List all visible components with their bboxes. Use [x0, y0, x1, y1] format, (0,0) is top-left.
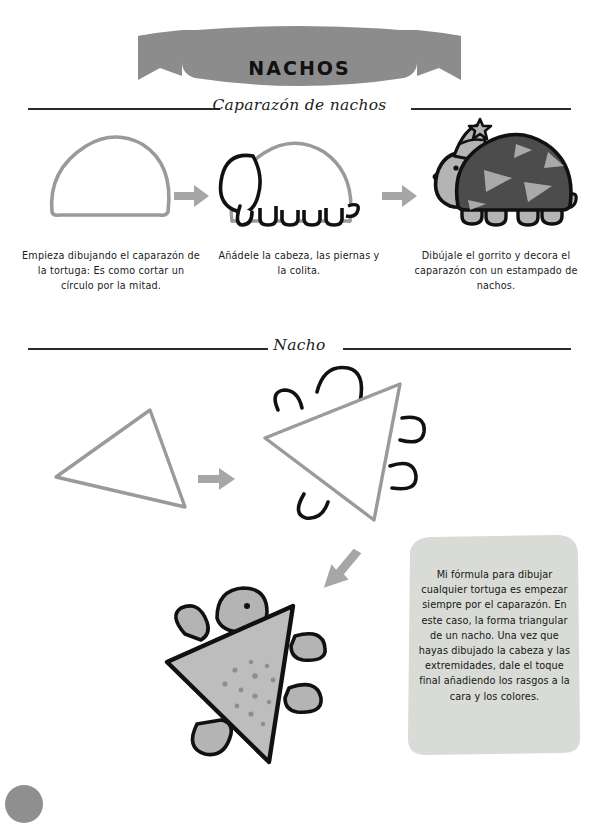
arrow-right-icon-3 — [196, 466, 238, 492]
arrow-right-icon-1 — [172, 183, 212, 209]
note-text: Mi fórmula para dibujar cualquier tortug… — [416, 567, 573, 704]
arrow-right-icon-2 — [380, 183, 420, 209]
caption-step-3: Dibújale el gorrito y decora el caparazó… — [410, 248, 582, 293]
page-title: NACHOS — [0, 57, 599, 79]
figure-nacho-turtle-colored — [155, 578, 370, 768]
figure-nacho-triangle-with-limbs — [262, 362, 437, 522]
section-title-nacho: Nacho — [28, 336, 571, 354]
page-corner-circle — [5, 785, 43, 823]
section-divider-nacho: Nacho — [28, 336, 571, 362]
figure-turtle-colored — [424, 118, 584, 230]
figure-turtle-shell-dome — [40, 126, 180, 222]
note-callout: Mi fórmula para dibujar cualquier tortug… — [404, 533, 585, 757]
section-title-caparazon: Caparazón de nachos — [28, 96, 571, 114]
figure-turtle-outline — [208, 126, 368, 226]
figure-nacho-triangle-outline — [50, 385, 215, 520]
title-banner: NACHOS — [0, 22, 599, 92]
caption-step-1: Empieza dibujando el caparazón de la tor… — [20, 248, 202, 293]
caption-step-2: Añádele la cabeza, las piernas y la coli… — [215, 248, 383, 278]
